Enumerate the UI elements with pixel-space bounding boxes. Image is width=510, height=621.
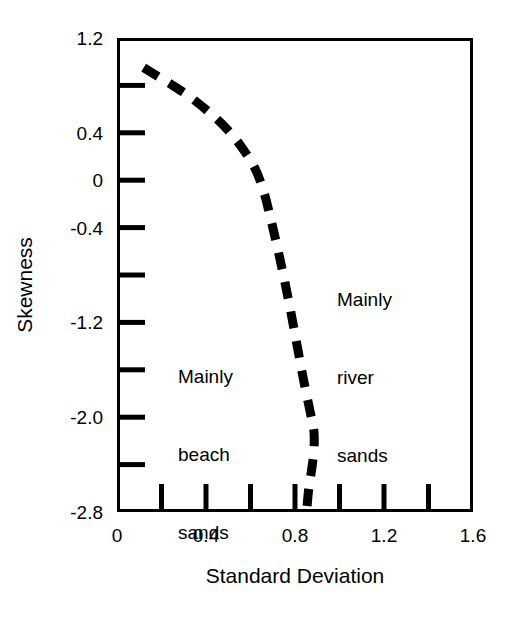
y-axis-tick-marks [117, 85, 145, 464]
x-tick-label: 1.6 [460, 526, 486, 545]
region-river-line-1: Mainly [337, 287, 392, 313]
region-beach-line-3: sands [178, 520, 233, 546]
region-river-line-2: river [337, 365, 392, 391]
region-beach-line-2: beach [178, 442, 233, 468]
region-label-beach-sands: Mainly beach sands [178, 312, 233, 598]
y-tick-label: -2.8 [35, 503, 103, 522]
y-tick-label: 1.2 [35, 29, 103, 48]
region-label-river-sands: Mainly river sands [337, 235, 392, 521]
y-tick-label: -1.2 [35, 313, 103, 332]
region-river-line-3: sands [337, 443, 392, 469]
x-tick-label: 0 [112, 526, 123, 545]
x-tick-label: 1.2 [371, 526, 397, 545]
x-tick-label: 0.8 [282, 526, 308, 545]
y-tick-label: 0.4 [35, 123, 103, 142]
y-tick-label: 0 [35, 171, 103, 190]
x-axis-title: Standard Deviation [117, 564, 473, 588]
sand-discriminant-chart: 1.20.40-0.4-1.2-2.0-2.8 00.40.81.21.6 St… [0, 0, 510, 621]
y-tick-label: -0.4 [35, 218, 103, 237]
y-axis-title: Skewness [13, 185, 37, 385]
plot-canvas [117, 38, 473, 512]
region-beach-line-1: Mainly [178, 364, 233, 390]
y-tick-label: -2.0 [35, 408, 103, 427]
